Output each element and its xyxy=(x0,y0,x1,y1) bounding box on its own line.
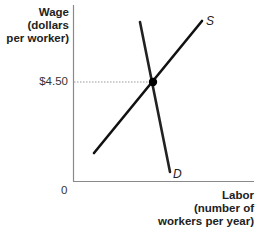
equilibrium-point xyxy=(149,78,157,86)
demand-curve xyxy=(140,22,170,172)
supply-curve xyxy=(94,21,202,153)
demand-label: D xyxy=(173,167,182,181)
supply-label: S xyxy=(206,14,214,28)
chart-plot-area: S D xyxy=(0,0,266,239)
